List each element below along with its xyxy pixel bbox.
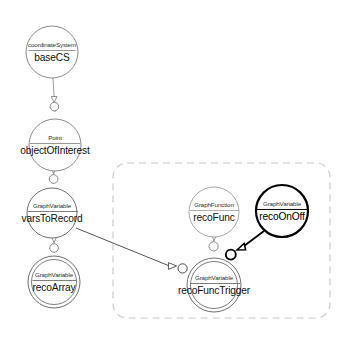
node-recoArray[interactable] xyxy=(28,256,80,308)
diagram-canvas xyxy=(0,0,341,339)
edge-varsToRecord-to-recoArray xyxy=(50,237,59,253)
node-recoFuncTrigger[interactable] xyxy=(187,258,241,312)
node-objectOfInterest[interactable] xyxy=(29,119,81,171)
edge-recoOnOff-to-recoFuncTrigger xyxy=(226,231,264,260)
node-baseCS[interactable] xyxy=(26,26,78,78)
node-recoOnOff[interactable] xyxy=(256,185,308,237)
edge-varsToRecord-to-recoFuncTrigger xyxy=(76,228,187,273)
node-varsToRecord[interactable] xyxy=(27,188,78,238)
edge-baseCS-to-objectOfInterest xyxy=(50,78,59,112)
node-recoFunc[interactable] xyxy=(189,187,239,237)
